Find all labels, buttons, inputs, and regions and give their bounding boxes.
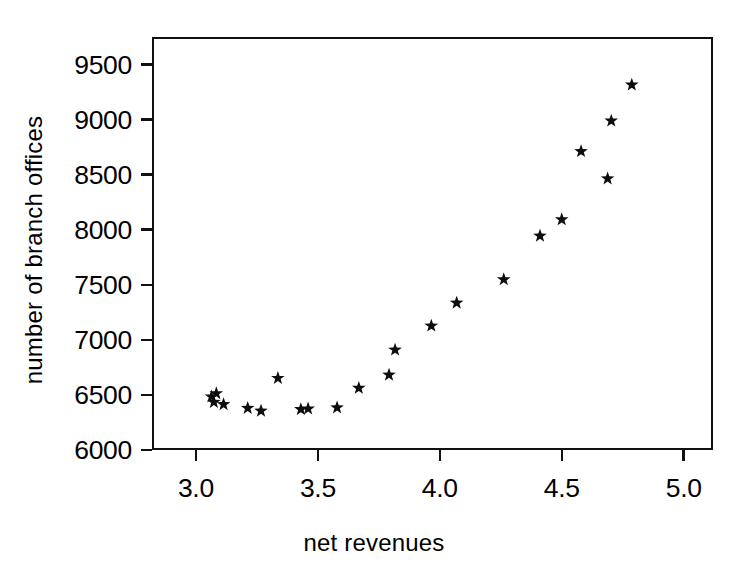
x-tick-mark	[195, 450, 198, 461]
x-tick-label: 3.0	[136, 475, 256, 502]
data-point-star	[450, 296, 464, 309]
data-point-star	[388, 343, 402, 356]
y-tick-mark	[141, 339, 152, 342]
data-point-star	[382, 368, 396, 381]
data-point-star	[533, 229, 547, 242]
x-tick-label: 4.0	[380, 475, 500, 502]
x-tick-label: 4.5	[502, 475, 622, 502]
y-tick-mark	[141, 118, 152, 121]
y-tick-label: 7500	[74, 272, 132, 299]
y-tick-mark	[141, 284, 152, 287]
data-point-star	[254, 404, 268, 417]
y-tick-label: 8000	[74, 217, 132, 244]
data-point-star	[574, 144, 588, 157]
data-point-star	[271, 371, 285, 384]
scatter-plot-figure: 60006500700075008000850090009500 3.03.54…	[0, 0, 748, 574]
x-tick-mark	[439, 450, 442, 461]
data-point-star	[555, 212, 569, 225]
data-point-star	[352, 381, 366, 394]
y-tick-label: 9500	[74, 52, 132, 79]
y-tick-mark	[141, 228, 152, 231]
data-point-star	[217, 397, 231, 410]
data-points-layer	[154, 39, 711, 448]
y-axis-title: number of branch offices	[22, 40, 46, 460]
y-tick-label: 6500	[74, 382, 132, 409]
data-point-star	[497, 272, 511, 285]
y-tick-mark	[141, 173, 152, 176]
y-tick-label: 9000	[74, 107, 132, 134]
x-tick-mark	[682, 450, 685, 461]
y-tick-mark	[141, 394, 152, 397]
data-point-star	[330, 401, 344, 414]
y-tick-label: 7000	[74, 327, 132, 354]
data-point-star	[625, 78, 639, 91]
x-tick-label: 5.0	[624, 475, 744, 502]
data-point-star	[241, 401, 255, 414]
data-point-star	[604, 114, 618, 127]
x-tick-mark	[317, 450, 320, 461]
y-tick-label: 6000	[74, 437, 132, 464]
x-tick-mark	[561, 450, 564, 461]
y-tick-label: 8500	[74, 162, 132, 189]
y-tick-mark	[141, 449, 152, 452]
plot-area	[152, 37, 713, 450]
y-tick-mark	[141, 63, 152, 66]
data-point-star	[601, 171, 615, 184]
x-tick-label: 3.5	[258, 475, 378, 502]
x-axis-title: net revenues	[0, 531, 748, 555]
data-point-star	[425, 319, 439, 332]
